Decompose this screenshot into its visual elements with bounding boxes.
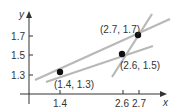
x-tick-label: 2.6 <box>115 98 129 109</box>
x-tick-label: 1.4 <box>53 98 67 109</box>
point-label: (2.6, 1.5) <box>120 60 160 71</box>
point-label: (1.4, 1.3) <box>54 79 94 90</box>
y-tick-label: 1.3 <box>11 70 25 81</box>
y-axis-label: y <box>18 9 25 20</box>
data-point <box>119 51 125 57</box>
y-axis-arrow-icon <box>26 11 32 18</box>
x-tick-label: 2.7 <box>132 98 146 109</box>
chart: 1.7 1.5 1.3 1.4 2.6 2.7 y x (1.4, 1.3) (… <box>0 0 176 112</box>
data-point <box>57 69 63 75</box>
y-tick-label: 1.5 <box>11 50 25 61</box>
y-tick-label: 1.7 <box>11 31 25 42</box>
point-label: (2.7, 1.7) <box>100 24 140 35</box>
x-axis-label: x <box>162 97 169 108</box>
